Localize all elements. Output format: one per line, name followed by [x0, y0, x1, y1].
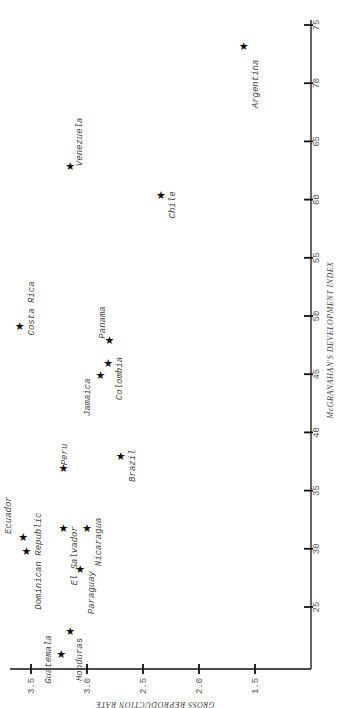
data-point: ★Chile: [156, 189, 178, 219]
data-point: ★Costa Rica: [15, 281, 37, 335]
y-axis-title: McGRANAHAN'S DEVELOPMENT INDEX: [326, 261, 335, 420]
point-label: Chile: [168, 191, 178, 218]
star-marker-icon: ★: [82, 522, 92, 535]
data-point: ★Guatemala: [44, 635, 66, 684]
star-marker-icon: ★: [96, 369, 106, 382]
data-point: ★Panama: [98, 306, 114, 347]
star-marker-icon: ★: [65, 160, 75, 173]
y-axis-ticks: 2530354045505560657075: [304, 20, 322, 613]
data-point: ★Ecuador: [4, 496, 28, 544]
x-tick-label: 2.0: [195, 678, 205, 694]
star-marker-icon: ★: [22, 545, 32, 558]
point-label: Dominican Republic: [34, 513, 44, 610]
point-label: Colombia: [115, 357, 125, 400]
x-tick-label: 2.5: [139, 678, 149, 694]
y-tick-label: 25: [312, 602, 322, 613]
star-marker-icon: ★: [239, 40, 249, 53]
data-point: ★Venezuela: [65, 118, 85, 173]
y-tick-label: 55: [312, 252, 322, 263]
point-label: Nicaragua: [94, 518, 104, 567]
y-tick-label: 75: [312, 20, 322, 31]
point-label: El Salvador: [70, 526, 80, 586]
data-point: ★Colombia: [103, 357, 125, 401]
point-label: Jamaica: [83, 378, 93, 416]
star-marker-icon: ★: [103, 357, 113, 370]
data-point: ★El Salvador: [59, 522, 81, 586]
star-marker-icon: ★: [156, 189, 166, 202]
x-tick-label: 3.5: [27, 678, 37, 694]
point-label: Honduras: [75, 638, 85, 681]
data-point: ★Brazil: [116, 449, 138, 481]
star-marker-icon: ★: [116, 450, 126, 463]
data-point: ★Jamaica: [83, 369, 105, 416]
star-marker-icon: ★: [75, 563, 85, 576]
point-label: Peru: [60, 443, 70, 465]
y-tick-label: 45: [312, 369, 322, 380]
data-point: ★Honduras: [65, 625, 85, 681]
point-label: Costa Rica: [27, 281, 37, 335]
data-point: ★Argentina: [239, 40, 261, 109]
star-marker-icon: ★: [18, 531, 28, 544]
point-label: Brazil: [128, 449, 138, 481]
point-label: Venezuela: [75, 118, 85, 167]
x-tick-label: 1.5: [251, 678, 261, 694]
y-tick-label: 65: [312, 136, 322, 147]
y-tick-label: 35: [312, 485, 322, 496]
y-tick-label: 60: [312, 194, 322, 205]
y-tick-label: 50: [312, 311, 322, 322]
point-label: Argentina: [251, 60, 261, 110]
point-label: Panama: [98, 306, 108, 338]
point-label: Guatemala: [44, 635, 54, 684]
star-marker-icon: ★: [65, 625, 75, 638]
data-points: ★Argentina★Venezuela★Chile★Costa Rica★Pa…: [4, 40, 261, 684]
data-point: ★Nicaragua: [82, 518, 104, 567]
y-tick-label: 40: [312, 427, 322, 438]
y-tick-label: 70: [312, 78, 322, 89]
point-label: Paraguay: [87, 570, 97, 614]
star-marker-icon: ★: [56, 648, 66, 661]
data-point: ★Peru: [59, 443, 71, 475]
star-marker-icon: ★: [15, 320, 25, 333]
star-marker-icon: ★: [59, 522, 69, 535]
y-tick-label: 30: [312, 543, 322, 554]
data-point: ★Dominican Republic: [22, 513, 44, 610]
data-point: ★Paraguay: [75, 563, 97, 615]
scatter-chart: 3.53.02.52.01.5 2530354045505560657075 G…: [0, 0, 344, 708]
point-label: Ecuador: [4, 496, 14, 534]
x-axis-title: GROSS REPRODUCTION RATE: [95, 700, 214, 708]
